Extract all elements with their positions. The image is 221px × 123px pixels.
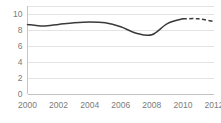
x-tick-label-2000: 2000	[18, 100, 37, 110]
x-tick-label-2004: 2004	[80, 100, 99, 110]
chart-canvas: 0246810 2000200220042006200820102012	[0, 0, 221, 123]
line-chart: 0246810 2000200220042006200820102012	[0, 0, 221, 123]
y-tick-label-8: 8	[18, 25, 23, 35]
y-tick-label-2: 2	[18, 73, 23, 83]
x-tick-label-2006: 2006	[111, 100, 130, 110]
series-line-actual	[28, 19, 183, 36]
x-tick-label-2012: 2012	[205, 100, 221, 110]
x-tick-label-2010: 2010	[173, 100, 192, 110]
y-tick-label-6: 6	[18, 41, 23, 51]
y-axis-tick-labels: 0246810	[13, 9, 23, 99]
series-line-projection	[183, 19, 214, 22]
x-tick-label-2008: 2008	[142, 100, 161, 110]
y-tick-label-4: 4	[18, 57, 23, 67]
y-tick-label-10: 10	[13, 9, 23, 19]
y-tick-label-0: 0	[18, 89, 23, 99]
x-tick-label-2002: 2002	[49, 100, 68, 110]
x-axis-tick-labels: 2000200220042006200820102012	[18, 100, 221, 110]
